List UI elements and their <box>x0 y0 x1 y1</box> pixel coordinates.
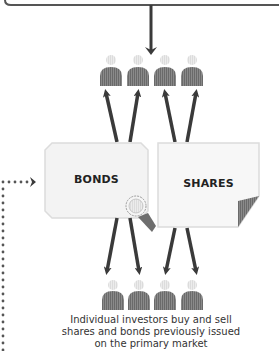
investor-icon <box>100 55 122 86</box>
shares-label: SHARES <box>158 177 259 190</box>
investor-icon <box>128 280 150 310</box>
top-bracket-line <box>5 0 279 5</box>
central-down-arrow <box>145 5 157 55</box>
top-investor-group <box>100 55 203 86</box>
bonds-label: BONDS <box>45 173 148 186</box>
investor-icon <box>181 55 203 86</box>
caption-line-2: shares and bonds previously issued <box>60 326 242 338</box>
caption: Individual investors buy and sell shares… <box>60 314 242 350</box>
investor-icon <box>127 55 149 86</box>
caption-line-3: on the primary market <box>60 338 242 350</box>
investor-icon <box>154 55 176 86</box>
dotted-connector <box>2 177 36 351</box>
investor-icon <box>102 280 124 310</box>
upward-arrows <box>106 93 196 142</box>
dotted-arrowhead-icon <box>30 177 36 187</box>
caption-line-1: Individual investors buy and sell <box>60 314 242 326</box>
bottom-investor-group <box>102 280 203 310</box>
investor-icon <box>154 280 176 310</box>
bonds-box <box>45 143 156 232</box>
investor-icon <box>181 280 203 310</box>
